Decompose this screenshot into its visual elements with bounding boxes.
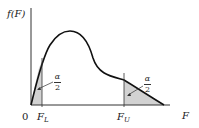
- right-area-numerator: α: [145, 75, 150, 83]
- f-distribution-plot: [0, 0, 199, 128]
- right-area-denominator: 2: [145, 86, 150, 94]
- y-axis-label: f(F): [7, 9, 25, 19]
- left-area-denominator: 2: [55, 84, 60, 92]
- upper-critical-label: FU: [117, 112, 130, 124]
- upper-critical-main: F: [117, 111, 124, 122]
- lower-critical-sub: L: [44, 116, 49, 124]
- lower-critical-main: F: [37, 111, 44, 122]
- left-area-label: α 2: [54, 73, 61, 92]
- right-area-label: α 2: [144, 75, 151, 94]
- left-area-numerator: α: [55, 73, 60, 81]
- x-axis-label: F: [182, 111, 189, 121]
- origin-label: 0: [22, 112, 28, 122]
- upper-critical-sub: U: [124, 116, 130, 124]
- lower-critical-label: FL: [37, 112, 49, 124]
